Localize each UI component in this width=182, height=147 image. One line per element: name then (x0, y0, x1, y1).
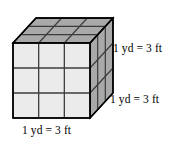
cube-front-face (13, 43, 90, 118)
label-width: 1 yd = 3 ft (22, 125, 71, 137)
label-depth: 1 yd = 3 ft (110, 94, 159, 106)
label-height: 1 yd = 3 ft (113, 43, 162, 55)
front-face-fill (13, 43, 90, 118)
cubic-yard-figure: 1 yd = 3 ft 1 yd = 3 ft 1 yd = 3 ft (0, 0, 182, 147)
